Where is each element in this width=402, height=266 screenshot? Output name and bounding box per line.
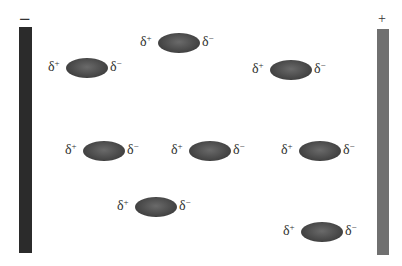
partial-positive-label: δ+ [252,61,264,76]
molecule-ellipse [299,141,341,161]
molecule-ellipse [270,60,312,80]
partial-positive-label: δ+ [65,142,77,157]
positive-plate [377,29,389,255]
partial-negative-label: δ− [202,34,214,49]
polar-molecule: δ+δ− [249,59,335,81]
molecule-ellipse [83,141,125,161]
polar-molecule: δ+δ− [62,140,148,162]
partial-negative-label: δ− [110,59,122,74]
molecule-ellipse [301,222,343,242]
polar-molecule: δ+δ− [137,32,223,54]
molecule-ellipse [189,141,231,161]
partial-positive-label: δ+ [171,142,183,157]
partial-negative-label: δ− [179,198,191,213]
partial-positive-label: δ+ [140,34,152,49]
molecule-ellipse [158,33,200,53]
partial-positive-label: δ+ [48,59,60,74]
polar-molecule: δ+δ− [168,140,254,162]
molecule-ellipse [135,197,177,217]
partial-positive-label: δ+ [117,198,129,213]
negative-plate-label: − [19,9,30,29]
molecule-ellipse [66,58,108,78]
partial-negative-label: δ− [233,142,245,157]
polar-molecule: δ+δ− [278,140,364,162]
positive-plate-label: + [378,12,386,26]
partial-negative-label: δ− [314,61,326,76]
partial-negative-label: δ− [127,142,139,157]
partial-positive-label: δ+ [283,223,295,238]
polar-molecule: δ+δ− [114,196,200,218]
polar-molecule: δ+δ− [45,57,131,79]
partial-negative-label: δ− [343,142,355,157]
partial-positive-label: δ+ [281,142,293,157]
polar-molecule: δ+δ− [280,221,366,243]
negative-plate [19,27,32,253]
diagram-canvas: − + δ+δ−δ+δ−δ+δ−δ+δ−δ+δ−δ+δ−δ+δ−δ+δ− [0,0,402,266]
partial-negative-label: δ− [345,223,357,238]
